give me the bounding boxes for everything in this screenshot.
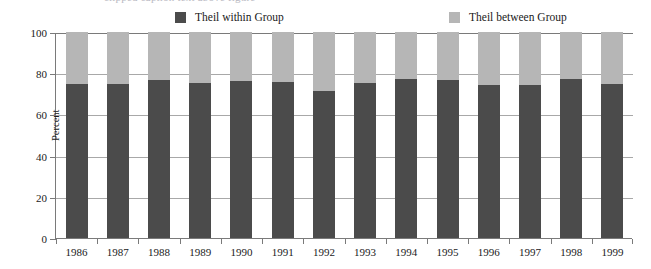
x-tick-label-1989: 1989 bbox=[189, 246, 211, 258]
dark-swatch-icon bbox=[175, 12, 186, 23]
bar-segment-between-1991 bbox=[272, 32, 294, 82]
stacked-bar-chart: clipped caption text above figure Theil … bbox=[0, 0, 651, 269]
gridline-60 bbox=[56, 115, 633, 116]
chart-legend: Theil within Group Theil between Group bbox=[0, 11, 651, 27]
bar-segment-between-1999 bbox=[601, 32, 623, 84]
clipped-caption-text: clipped caption text above figure bbox=[104, 0, 255, 3]
bar-segment-between-1988 bbox=[148, 32, 170, 80]
bar-segment-within-1993 bbox=[354, 83, 376, 238]
bar-segment-between-1993 bbox=[354, 32, 376, 83]
legend-item-theil-within-group: Theil within Group bbox=[175, 11, 284, 23]
y-axis-title: Percent bbox=[50, 110, 61, 142]
y-tick-40 bbox=[50, 157, 56, 158]
bar-segment-within-1994 bbox=[395, 79, 417, 238]
y-tick-label-40: 40 bbox=[36, 151, 47, 163]
x-tick-label-1987: 1987 bbox=[107, 246, 129, 258]
bar-segment-within-1986 bbox=[66, 84, 88, 239]
bar-segment-between-1986 bbox=[66, 32, 88, 84]
bar-segment-between-1992 bbox=[313, 32, 335, 91]
x-tick-label-1991: 1991 bbox=[272, 246, 294, 258]
x-tick-5 bbox=[262, 239, 263, 244]
x-tick-13 bbox=[592, 239, 593, 244]
bar-segment-between-1989 bbox=[189, 32, 211, 83]
x-tick-end bbox=[632, 239, 633, 244]
x-tick-label-1997: 1997 bbox=[519, 246, 541, 258]
y-tick-60 bbox=[50, 115, 56, 116]
x-tick-label-1996: 1996 bbox=[478, 246, 500, 258]
bar-segment-within-1990 bbox=[230, 81, 252, 238]
x-tick-6 bbox=[303, 239, 304, 244]
bar-segment-within-1997 bbox=[519, 85, 541, 238]
bar-segment-between-1998 bbox=[560, 32, 582, 79]
bar-segment-within-1995 bbox=[437, 80, 459, 238]
legend-label-between: Theil between Group bbox=[469, 11, 567, 23]
x-tick-9 bbox=[427, 239, 428, 244]
x-tick-label-1999: 1999 bbox=[601, 246, 623, 258]
y-tick-20 bbox=[50, 198, 56, 199]
light-swatch-icon bbox=[449, 12, 460, 23]
gridline-40 bbox=[56, 157, 633, 158]
x-tick-label-1986: 1986 bbox=[66, 246, 88, 258]
bar-segment-between-1997 bbox=[519, 32, 541, 85]
x-tick-1 bbox=[97, 239, 98, 244]
y-tick-100 bbox=[50, 33, 56, 34]
bar-segment-between-1995 bbox=[437, 32, 459, 80]
bar-segment-within-1999 bbox=[601, 84, 623, 238]
y-tick-label-60: 60 bbox=[36, 109, 47, 121]
x-tick-12 bbox=[551, 239, 552, 244]
bar-segment-within-1988 bbox=[148, 80, 170, 238]
y-tick-80 bbox=[50, 74, 56, 75]
y-tick-label-0: 0 bbox=[42, 233, 48, 245]
y-axis-labels: 020406080100 bbox=[0, 33, 50, 239]
x-tick-label-1994: 1994 bbox=[395, 246, 417, 258]
bar-segment-between-1987 bbox=[107, 32, 129, 84]
x-tick-0 bbox=[56, 239, 57, 244]
bar-segment-within-1998 bbox=[560, 79, 582, 238]
bar-segment-between-1996 bbox=[478, 32, 500, 85]
y-tick-label-80: 80 bbox=[36, 68, 47, 80]
x-tick-label-1993: 1993 bbox=[354, 246, 376, 258]
x-tick-4 bbox=[221, 239, 222, 244]
gridline-100 bbox=[56, 33, 633, 34]
x-tick-10 bbox=[468, 239, 469, 244]
x-tick-11 bbox=[509, 239, 510, 244]
legend-label-within: Theil within Group bbox=[195, 11, 284, 23]
bar-segment-within-1987 bbox=[107, 84, 129, 238]
x-tick-label-1998: 1998 bbox=[560, 246, 582, 258]
x-tick-3 bbox=[180, 239, 181, 244]
x-tick-8 bbox=[386, 239, 387, 244]
y-tick-label-20: 20 bbox=[36, 192, 47, 204]
x-tick-label-1990: 1990 bbox=[230, 246, 252, 258]
bar-segment-between-1990 bbox=[230, 32, 252, 81]
legend-item-theil-between-group: Theil between Group bbox=[449, 11, 567, 23]
plot-area: Percent 19861987198819891990199119921993… bbox=[55, 33, 632, 239]
bar-segment-between-1994 bbox=[395, 32, 417, 79]
x-tick-label-1992: 1992 bbox=[313, 246, 335, 258]
bar-segment-within-1992 bbox=[313, 91, 335, 238]
gridline-80 bbox=[56, 74, 633, 75]
x-tick-7 bbox=[345, 239, 346, 244]
bar-segment-within-1996 bbox=[478, 85, 500, 238]
bar-segment-within-1991 bbox=[272, 82, 294, 238]
bar-segment-within-1989 bbox=[189, 83, 211, 238]
x-tick-label-1995: 1995 bbox=[437, 246, 459, 258]
clipped-caption: clipped caption text above figure bbox=[0, 0, 651, 7]
x-tick-label-1988: 1988 bbox=[148, 246, 170, 258]
gridline-20 bbox=[56, 198, 633, 199]
y-tick-label-100: 100 bbox=[31, 27, 48, 39]
x-tick-2 bbox=[138, 239, 139, 244]
